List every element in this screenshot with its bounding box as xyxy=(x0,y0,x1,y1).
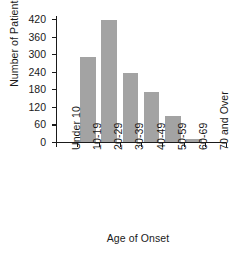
y-axis-tick-label: 180 xyxy=(28,84,46,95)
y-axis-line xyxy=(56,16,57,143)
y-axis-tick-label: 360 xyxy=(28,31,46,42)
bar-chart-figure: Number of Patients 060120180240300360420… xyxy=(0,0,234,258)
plot-area: 060120180240300360420 Under 1010-1920-29… xyxy=(56,16,226,143)
x-axis-tick-label: 20-29 xyxy=(113,123,124,150)
y-axis-tick-label: 0 xyxy=(40,137,46,148)
x-axis-tick-label: 50-59 xyxy=(177,123,188,150)
x-axis-tick-label: 40-49 xyxy=(156,123,167,150)
x-axis-tick xyxy=(56,143,57,147)
x-axis-title: Age of Onset xyxy=(0,232,234,244)
y-axis-tick: 360 xyxy=(52,37,56,38)
y-axis-tick-label: 420 xyxy=(28,14,46,25)
y-axis-tick: 180 xyxy=(52,89,56,90)
y-axis-tick-label: 120 xyxy=(28,102,46,113)
x-axis-tick-label: Under 10 xyxy=(71,106,82,150)
x-axis-tick-label: 60-69 xyxy=(198,123,209,150)
x-axis-tick-label: 30-39 xyxy=(134,123,145,150)
y-axis-tick: 240 xyxy=(52,72,56,73)
y-axis-tick: 60 xyxy=(52,124,56,125)
y-axis-tick: 120 xyxy=(52,107,56,108)
x-axis-tick-label: 10-19 xyxy=(92,123,103,150)
y-axis-tick-label: 240 xyxy=(28,66,46,77)
y-axis-title: Number of Patients xyxy=(8,0,20,101)
y-axis-tick-label: 300 xyxy=(28,49,46,60)
y-axis-tick-label: 60 xyxy=(34,119,46,130)
y-axis-tick: 300 xyxy=(52,54,56,55)
y-axis-tick: 420 xyxy=(52,19,56,20)
x-axis-tick-label: 70 and Over xyxy=(219,91,230,150)
